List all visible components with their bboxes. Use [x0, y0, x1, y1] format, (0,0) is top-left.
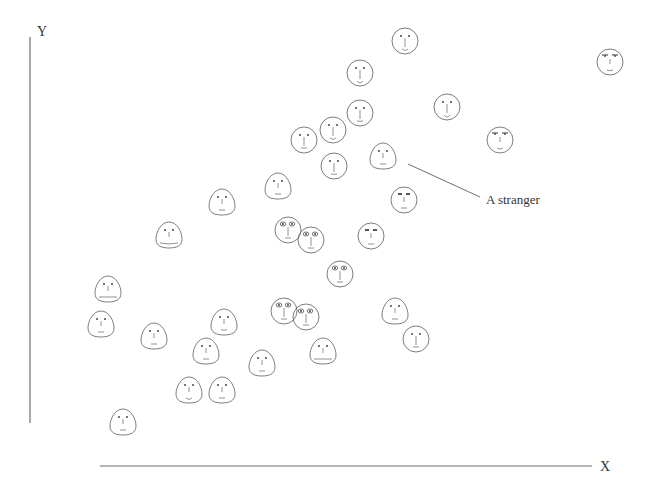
chernoff-face-icon [176, 377, 202, 403]
chernoff-face-icon [293, 304, 319, 330]
chernoff-face-icon [327, 261, 353, 287]
chernoff-face-icon [291, 127, 317, 153]
chernoff-face-icon [403, 326, 429, 352]
chernoff-face-icon [193, 338, 219, 364]
chernoff-face-icon [434, 94, 460, 120]
chernoff-face-icon [391, 187, 417, 213]
chernoff-face-icon [320, 117, 346, 143]
chernoff-face-icon [321, 153, 347, 179]
chernoff-face-icon [347, 100, 373, 126]
chernoff-face-icon [110, 409, 136, 435]
x-axis-label: X [600, 459, 610, 475]
chernoff-face-icon [487, 127, 513, 153]
chernoff-face-icon [392, 28, 418, 54]
chernoff-face-icon [209, 377, 235, 403]
chernoff-face-icon [95, 276, 121, 302]
chernoff-face-icon [358, 223, 384, 249]
chernoff-face-icon [310, 338, 336, 364]
chernoff-face-icon [249, 350, 275, 376]
chernoff-face-icon [211, 309, 237, 335]
chernoff-scatter-plot [0, 0, 656, 491]
y-axis-label: Y [37, 24, 47, 40]
chernoff-face-icon [275, 217, 301, 243]
chernoff-face-icon [156, 222, 182, 248]
chernoff-face-icon [370, 143, 396, 169]
chernoff-face-icon [209, 189, 235, 215]
stranger-annotation: A stranger [486, 192, 540, 208]
chernoff-face-icon [382, 298, 408, 324]
chernoff-face-icon [265, 173, 291, 199]
chernoff-face-icon [298, 227, 324, 253]
chernoff-face-icon [597, 49, 623, 75]
chernoff-face-icon [88, 311, 114, 337]
chernoff-face-icon [141, 323, 167, 349]
annotation-leader-line [408, 164, 480, 197]
chernoff-face-icon [347, 60, 373, 86]
